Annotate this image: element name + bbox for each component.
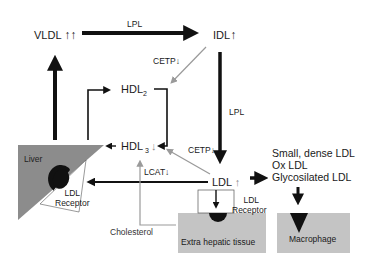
- hdl2-to-hdl3-arrow: [154, 89, 167, 146]
- small-dense-ldl-label: Small, dense LDL: [272, 147, 355, 159]
- cetp-label-lower: CETP↓: [188, 146, 215, 155]
- idl-label: IDL↑: [213, 29, 236, 41]
- liver-receptor-label: LDL Receptor: [55, 188, 90, 208]
- liver-to-hdl2-arrow: [88, 90, 108, 140]
- vldl-label: VLDL ↑↑: [34, 29, 76, 41]
- liver-receptor-ldl: LDL: [55, 188, 90, 198]
- idl-name: IDL: [213, 29, 230, 41]
- hdl2-name: HDL: [121, 83, 143, 95]
- hdl2-subscript: 2: [143, 90, 147, 97]
- hdl3-decrease-icon: ↓: [151, 140, 157, 152]
- macrophage-box: [277, 213, 350, 253]
- glycosilated-ldl-label: Glycosilated LDL: [272, 171, 355, 183]
- ldl-label: LDL ↑: [212, 177, 240, 188]
- idl-increase-icon: ↑: [230, 28, 236, 42]
- ox-ldl-label: Ox LDL: [272, 159, 355, 171]
- hdl3-name: HDL: [121, 140, 143, 152]
- extra-hepatic-tissue-label: Extra hepatic tissue: [181, 238, 255, 247]
- modified-ldl-list: Small, dense LDL Ox LDL Glycosilated LDL: [272, 147, 355, 183]
- liver-receptor-text: Receptor: [55, 198, 90, 208]
- liver-label: Liver: [24, 155, 42, 164]
- extra-hepatic-receptor-label: LDL Receptor: [236, 195, 267, 215]
- hdl3-subscript: 3: [145, 147, 149, 154]
- hdl2-label: HDL2: [121, 84, 147, 97]
- cholesterol-label: Cholesterol: [110, 228, 153, 237]
- ldl-increase-icon: ↑: [235, 176, 241, 188]
- vldl-increase-icon: ↑↑: [64, 28, 76, 42]
- lpl-label-top: LPL: [127, 20, 142, 29]
- vldl-name: VLDL: [34, 29, 61, 41]
- extra-hepatic-receptor-ldl: LDL: [236, 195, 267, 205]
- cetp-label-upper: CETP↓: [153, 57, 180, 66]
- hdl3-label: HDL3↓: [121, 141, 156, 154]
- ldl-name: LDL: [212, 176, 232, 188]
- lpl-label-vertical: LPL: [229, 108, 244, 117]
- macrophage-label: Macrophage: [289, 235, 336, 244]
- lcat-label: LCAT↓: [144, 168, 169, 177]
- extra-hepatic-receptor-text: Receptor: [232, 205, 267, 215]
